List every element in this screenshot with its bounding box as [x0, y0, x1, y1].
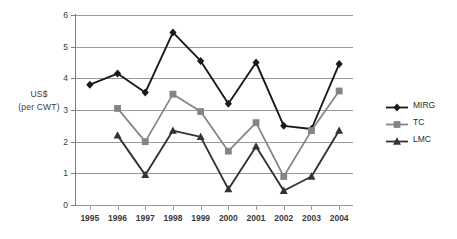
y-tick-label: 2 [63, 137, 68, 147]
x-tick-mark [256, 205, 257, 210]
plot-area: 0123456199519961997199819992000200120022… [76, 15, 353, 205]
y-tick-label: 6 [63, 10, 68, 20]
x-tick-mark [90, 205, 91, 210]
series-layer [76, 15, 353, 205]
data-point-marker [225, 148, 232, 155]
x-tick-label: 1995 [80, 213, 99, 223]
y-tick-mark [71, 78, 76, 79]
x-tick-mark [201, 205, 202, 210]
legend-label: TC [413, 117, 424, 127]
data-point-marker [197, 108, 204, 115]
legend-item-lmc: LMC [386, 130, 454, 147]
data-point-marker [253, 119, 260, 126]
data-point-marker [142, 138, 149, 145]
x-tick-label: 1997 [136, 213, 155, 223]
data-point-marker [86, 81, 93, 89]
y-tick-mark [71, 173, 76, 174]
x-tick-label: 2001 [247, 213, 266, 223]
y-axis-title-line-1: US$ [8, 88, 70, 101]
x-tick-label: 1998 [163, 213, 182, 223]
data-point-marker [394, 121, 401, 128]
legend-label: LMC [413, 134, 431, 144]
line-chart: US$ (per CWT) 01234561995199619971998199… [0, 0, 457, 239]
data-point-marker [336, 88, 343, 95]
x-tick-label: 2000 [219, 213, 238, 223]
data-point-marker [335, 126, 343, 133]
y-tick-label: 4 [63, 73, 68, 83]
x-tick-label: 2004 [330, 213, 349, 223]
data-point-marker [170, 91, 177, 98]
y-tick-mark [71, 142, 76, 143]
data-point-marker [280, 122, 287, 130]
legend-item-mirg: MIRG [386, 96, 454, 113]
y-tick-label: 1 [63, 168, 68, 178]
y-axis-title: US$ (per CWT) [8, 88, 70, 114]
data-point-marker [336, 60, 343, 68]
chart-legend: MIRG TC LMC [386, 96, 454, 147]
data-point-marker [308, 127, 315, 134]
y-tick-mark [71, 15, 76, 16]
x-tick-label: 1996 [108, 213, 127, 223]
legend-swatch-diamond-icon [386, 99, 408, 110]
x-tick-mark [145, 205, 146, 210]
x-tick-mark [118, 205, 119, 210]
x-tick-label: 2003 [302, 213, 321, 223]
x-tick-label: 2002 [274, 213, 293, 223]
x-tick-mark [311, 205, 312, 210]
legend-label: MIRG [413, 100, 435, 110]
x-tick-mark [284, 205, 285, 210]
y-tick-mark [71, 110, 76, 111]
legend-item-tc: TC [386, 113, 454, 130]
y-axis-title-line-2: (per CWT) [8, 101, 70, 114]
legend-swatch-square-icon [386, 116, 408, 127]
x-tick-mark [228, 205, 229, 210]
data-point-marker [114, 131, 122, 138]
x-tick-mark [173, 205, 174, 210]
x-tick-label: 1999 [191, 213, 210, 223]
y-tick-label: 5 [63, 42, 68, 52]
data-point-marker [169, 126, 177, 133]
y-tick-label: 0 [63, 200, 68, 210]
y-tick-label: 3 [63, 105, 68, 115]
data-point-marker [252, 142, 260, 149]
data-point-marker [393, 104, 400, 112]
x-tick-mark [339, 205, 340, 210]
y-tick-mark [71, 205, 76, 206]
series-line-mirg [90, 32, 339, 129]
data-point-marker [280, 173, 287, 180]
data-point-marker [114, 105, 121, 112]
legend-swatch-triangle-icon [386, 133, 408, 144]
y-tick-mark [71, 47, 76, 48]
